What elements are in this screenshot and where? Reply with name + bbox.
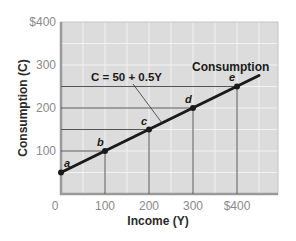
x-tick-100: 100 [95,199,115,213]
point-e [234,84,240,90]
consumption-chart: a b c d e C = 50 + 0.5Y Consumption $400… [0,0,296,241]
x-tick-200: 200 [139,199,159,213]
point-a [58,170,64,176]
point-d [190,105,196,111]
point-label-a: a [64,157,70,169]
y-tick-100: 100 [36,144,56,158]
equation-label: C = 50 + 0.5Y [91,71,162,83]
y-tick-200: 200 [36,101,56,115]
x-tick-300: 300 [183,199,203,213]
point-label-d: d [185,93,192,105]
y-tick-400: $400 [29,15,56,29]
y-tick-300: 300 [36,58,56,72]
x-axis-label: Income (Y) [127,214,188,228]
series-label: Consumption [192,60,269,74]
point-label-b: b [97,136,104,148]
point-label-c: c [141,115,147,127]
point-b [102,148,108,154]
point-c [146,127,152,133]
y-axis-label: Consumption (C) [16,59,30,156]
x-tick-0: 0 [52,199,59,213]
x-tick-400: $400 [224,199,251,213]
